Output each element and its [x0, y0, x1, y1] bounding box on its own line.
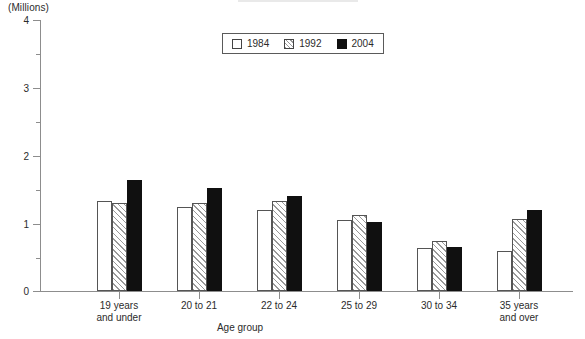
bar-chart: (Millions) 4 3 2 1 0 — [0, 0, 585, 339]
bar-1984-1 — [177, 207, 192, 291]
bar-1992-3 — [352, 215, 367, 291]
y-axis-line — [40, 20, 41, 292]
legend-swatch-1984 — [232, 39, 242, 49]
plot-area: 4 3 2 1 0 — [40, 20, 573, 292]
x-category-label-2: 22 to 24 — [234, 300, 324, 312]
legend: 1984 1992 2004 — [222, 33, 384, 54]
bar-2004-0 — [127, 180, 142, 291]
legend-label-1992: 1992 — [299, 38, 321, 49]
bar-2004-4 — [447, 247, 462, 291]
legend-item-2004[interactable]: 2004 — [337, 38, 374, 49]
bar-2004-3 — [367, 222, 382, 291]
bar-1984-2 — [257, 210, 272, 291]
y-tick-4 — [33, 20, 40, 21]
x-axis-title: Age group — [217, 322, 263, 333]
legend-swatch-1992 — [284, 39, 294, 49]
bar-group-4 — [416, 241, 462, 291]
x-category-label-3: 25 to 29 — [314, 300, 404, 312]
y-tick-label-0: 0 — [23, 286, 29, 297]
bar-group-5 — [496, 210, 542, 291]
y-tick-1 — [33, 224, 40, 225]
y-tick-1-5 — [36, 190, 40, 191]
bar-2004-5 — [527, 210, 542, 291]
legend-item-1984[interactable]: 1984 — [232, 38, 269, 49]
legend-label-2004: 2004 — [352, 38, 374, 49]
y-tick-label-2: 2 — [23, 151, 29, 162]
legend-item-1992[interactable]: 1992 — [284, 38, 321, 49]
x-category-label-4: 30 to 34 — [394, 300, 484, 312]
x-tick-3 — [359, 292, 360, 299]
bar-1984-5 — [497, 251, 512, 291]
top-crop-artifact — [238, 0, 358, 2]
bar-group-1 — [176, 188, 222, 291]
bar-1992-2 — [272, 201, 287, 291]
x-tick-2 — [279, 292, 280, 299]
bar-group-3 — [336, 215, 382, 291]
bar-1984-4 — [417, 248, 432, 291]
y-tick-2-5 — [36, 122, 40, 123]
bar-1992-5 — [512, 219, 527, 291]
bar-1992-1 — [192, 203, 207, 291]
y-tick-0-5 — [36, 258, 40, 259]
y-tick-label-3: 3 — [23, 83, 29, 94]
y-tick-label-4: 4 — [23, 15, 29, 26]
y-tick-3 — [33, 88, 40, 89]
bar-1992-4 — [432, 241, 447, 291]
x-category-label-0: 19 yearsand under — [74, 300, 164, 323]
bar-1992-0 — [112, 203, 127, 291]
x-category-label-1: 20 to 21 — [154, 300, 244, 312]
bar-2004-1 — [207, 188, 222, 291]
bar-2004-2 — [287, 196, 302, 291]
x-tick-4 — [439, 292, 440, 299]
y-tick-label-1: 1 — [23, 219, 29, 230]
y-axis-unit-caption: (Millions) — [8, 2, 49, 13]
x-tick-1 — [199, 292, 200, 299]
bar-1984-3 — [337, 220, 352, 291]
legend-swatch-2004 — [337, 39, 347, 49]
bar-group-2 — [256, 196, 302, 291]
x-tick-0 — [119, 292, 120, 299]
legend-label-1984: 1984 — [247, 38, 269, 49]
x-tick-5 — [519, 292, 520, 299]
bar-group-0 — [96, 180, 142, 291]
bar-1984-0 — [97, 201, 112, 291]
y-tick-3-5 — [36, 54, 40, 55]
x-category-label-5: 35 yearsand over — [474, 300, 564, 323]
y-tick-2 — [33, 156, 40, 157]
y-tick-0 — [33, 291, 40, 292]
